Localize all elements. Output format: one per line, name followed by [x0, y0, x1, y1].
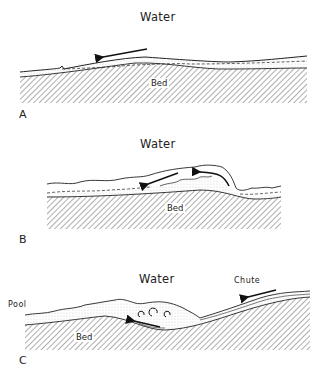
flow-arrow-a — [103, 49, 147, 57]
panel-c — [25, 290, 310, 350]
water-label-b: Water — [140, 137, 176, 151]
bed-label-c: Bed — [74, 332, 94, 342]
panel-a — [20, 49, 307, 103]
panel-label-b: B — [19, 233, 27, 246]
bed-label-a: Bed — [149, 78, 169, 88]
diagram-canvas — [0, 0, 319, 374]
panel-label-a: A — [19, 108, 27, 121]
water-label-a: Water — [140, 10, 176, 24]
chute-label: Chute — [234, 276, 260, 285]
bed-label-b: Bed — [165, 203, 185, 213]
panel-b — [47, 165, 281, 229]
panel-label-c: C — [19, 354, 27, 367]
water-label-c: Water — [139, 272, 175, 286]
pool-label: Pool — [8, 300, 27, 309]
